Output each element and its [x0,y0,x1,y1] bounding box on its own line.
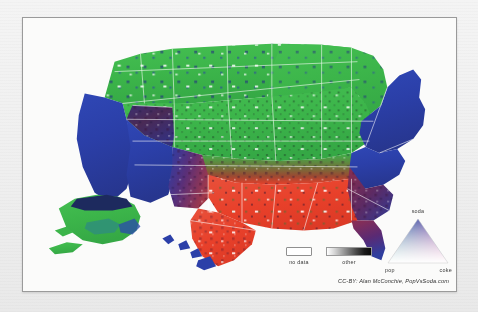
ternary-soda-label: soda [412,208,425,214]
map-legend: no data other soda pop coke [286,209,450,265]
no-data-label: no data [289,259,309,265]
other-label: other [342,259,356,265]
attribution-text: CC-BY: Alan McConchie, PopVsSoda.com [338,278,449,284]
legend-other: other [326,247,372,265]
no-data-swatch [286,247,312,256]
ternary-legend: soda pop coke [386,209,450,265]
legend-no-data: no data [286,247,312,265]
ternary-pop-label: pop [385,267,395,273]
ternary-coke-label: coke [440,267,452,273]
other-gradient-swatch [326,247,372,256]
map-figure-frame: no data other soda pop coke CC-BY: Alan … [22,17,457,292]
